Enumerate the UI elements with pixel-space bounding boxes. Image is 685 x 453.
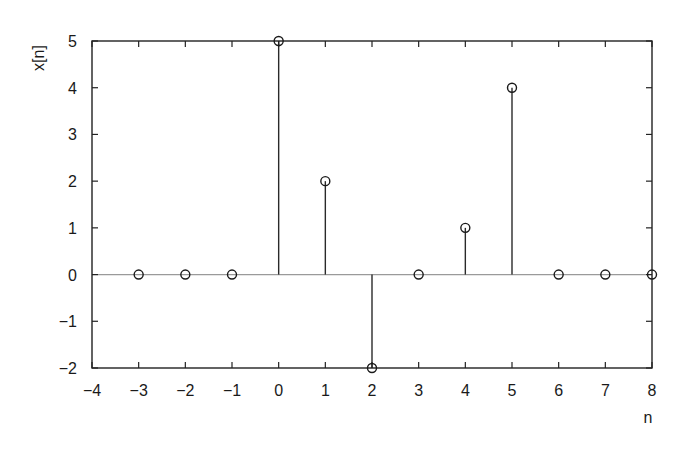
x-tick-label: 6 [554, 382, 563, 399]
x-tick-label: 8 [648, 382, 657, 399]
x-tick-labels: −4−3−2−1012345678 [83, 382, 657, 399]
x-axis-label: n [644, 409, 653, 426]
x-tick-label: 5 [508, 382, 517, 399]
stem-marker-circle [508, 83, 517, 92]
y-tick-label: 2 [68, 173, 77, 190]
x-tick-label: 2 [368, 382, 377, 399]
stem-marker-circle [181, 270, 190, 279]
y-tick-label: 0 [68, 267, 77, 284]
y-tick-label: 3 [68, 126, 77, 143]
stem-marker-circle [134, 270, 143, 279]
stem-marker-circle [274, 37, 283, 46]
x-tick-label: 1 [321, 382, 330, 399]
stem-marker-circle [368, 364, 377, 373]
stems [279, 41, 512, 368]
stem-plot: x[n] −4−3−2−1012345678 −2−1012345 n [0, 0, 685, 453]
y-tick-label: 5 [68, 33, 77, 50]
x-tick-label: −3 [130, 382, 148, 399]
x-tick-label: −4 [83, 382, 101, 399]
y-tick-label: 1 [68, 220, 77, 237]
y-tick-label: −1 [59, 313, 77, 330]
y-axis-title: x[n] [30, 45, 47, 71]
y-axis-label: x[n] [30, 45, 47, 71]
stem-marker-circle [461, 223, 470, 232]
stem-marker-circle [414, 270, 423, 279]
x-tick-label: −2 [176, 382, 194, 399]
x-tick-label: −1 [223, 382, 241, 399]
x-tick-label: 3 [414, 382, 423, 399]
y-tick-label: 4 [68, 80, 77, 97]
x-tick-label: 7 [601, 382, 610, 399]
stem-marker-circle [321, 177, 330, 186]
stem-marker-circle [554, 270, 563, 279]
x-tick-label: 0 [274, 382, 283, 399]
stem-markers [134, 37, 656, 373]
y-tick-labels: −2−1012345 [59, 33, 77, 377]
stem-marker-circle [228, 270, 237, 279]
x-tick-label: 4 [461, 382, 470, 399]
y-tick-label: −2 [59, 360, 77, 377]
stem-marker-circle [601, 270, 610, 279]
stem-marker-circle [648, 270, 657, 279]
